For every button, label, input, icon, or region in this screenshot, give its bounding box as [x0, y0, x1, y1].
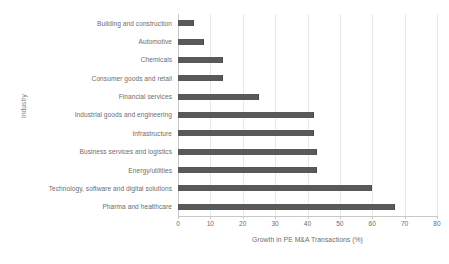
- x-tick: [178, 216, 179, 219]
- bar-row: [178, 124, 437, 142]
- x-tick: [405, 216, 406, 219]
- bar-row: [178, 14, 437, 32]
- x-tick: [372, 216, 373, 219]
- bar: [178, 57, 223, 63]
- category-label: Industrial goods and engineering: [14, 106, 176, 124]
- bar-row: [178, 143, 437, 161]
- x-tick-label: 80: [433, 220, 440, 227]
- category-label: Consumer goods and retail: [14, 69, 176, 87]
- bar: [178, 94, 259, 100]
- category-label: Pharma and healthcare: [14, 198, 176, 216]
- category-label: Energy/utilities: [14, 161, 176, 179]
- x-axis-tick-labels: 01020304050607080: [178, 220, 437, 232]
- bar-row: [178, 69, 437, 87]
- x-tick: [275, 216, 276, 219]
- x-tick-label: 50: [336, 220, 343, 227]
- bar: [178, 167, 317, 173]
- x-axis-title: Growth in PE M&A Transactions (%): [178, 236, 437, 243]
- bar-series: [178, 14, 437, 216]
- x-tick-label: 60: [369, 220, 376, 227]
- x-axis-ticks: [178, 216, 437, 219]
- bar-row: [178, 179, 437, 197]
- category-axis-labels: Building and constructionAutomotiveChemi…: [14, 14, 176, 216]
- bar: [178, 75, 223, 81]
- category-label: Financial services: [14, 87, 176, 105]
- category-label: Chemicals: [14, 51, 176, 69]
- x-tick: [243, 216, 244, 219]
- bar-row: [178, 198, 437, 216]
- bar-row: [178, 32, 437, 50]
- bar: [178, 130, 314, 136]
- x-tick: [308, 216, 309, 219]
- bar: [178, 185, 372, 191]
- x-tick: [437, 216, 438, 219]
- gridline: [437, 14, 438, 216]
- x-tick-label: 40: [304, 220, 311, 227]
- bar-row: [178, 161, 437, 179]
- x-tick: [340, 216, 341, 219]
- x-tick: [210, 216, 211, 219]
- category-label: Technology, software and digital solutio…: [14, 179, 176, 197]
- bar: [178, 149, 317, 155]
- bar: [178, 204, 395, 210]
- x-tick-label: 20: [239, 220, 246, 227]
- bar-row: [178, 51, 437, 69]
- category-label: Infrastructure: [14, 124, 176, 142]
- plot-area: [178, 14, 437, 216]
- category-label: Business services and logistics: [14, 143, 176, 161]
- x-tick-label: 0: [176, 220, 180, 227]
- x-tick-label: 70: [401, 220, 408, 227]
- bar-row: [178, 87, 437, 105]
- bar: [178, 39, 204, 45]
- bar-chart: Industry Building and constructionAutomo…: [0, 0, 449, 264]
- category-label: Automotive: [14, 32, 176, 50]
- bar-row: [178, 106, 437, 124]
- category-label: Building and construction: [14, 14, 176, 32]
- x-tick-label: 30: [271, 220, 278, 227]
- x-tick-label: 10: [207, 220, 214, 227]
- bar: [178, 20, 194, 26]
- bar: [178, 112, 314, 118]
